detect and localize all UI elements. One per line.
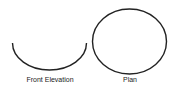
plan-label: Plan [112, 76, 148, 83]
front-elevation-label: Front Elevation [20, 76, 80, 83]
plan-circle [93, 9, 167, 74]
front-elevation-arc [13, 43, 87, 70]
